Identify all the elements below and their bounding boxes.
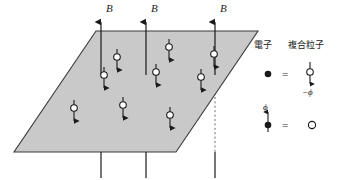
figure-canvas: B B B [0, 0, 341, 180]
legend-filled-dot-icon [265, 122, 272, 129]
legend-electron-dot-icon [265, 71, 272, 78]
legend-composite-open-circle-icon [308, 121, 315, 128]
legend-header-composite-particle: 複合粒子 [288, 39, 324, 50]
physics-figure: B B B [0, 0, 341, 180]
two-dimensional-plane [14, 31, 258, 152]
legend-equals-1: = [282, 68, 288, 80]
legend-composite-symbol-row1 [307, 62, 314, 84]
field-label-b-2: B [151, 2, 158, 14]
legend-flux-label-positive: ϕ [263, 102, 268, 112]
legend-header-electron: 電子 [254, 40, 272, 50]
field-label-b-3: B [220, 2, 227, 14]
field-label-b-1: B [106, 2, 113, 14]
legend-flux-label-negative: −ϕ [302, 87, 313, 97]
legend-open-circle-icon [307, 69, 314, 76]
legend: 電子 複合粒子 = −ϕ ϕ = [254, 39, 324, 132]
legend-composite-symbol-row2 [265, 112, 272, 132]
legend-equals-2: = [282, 119, 288, 131]
